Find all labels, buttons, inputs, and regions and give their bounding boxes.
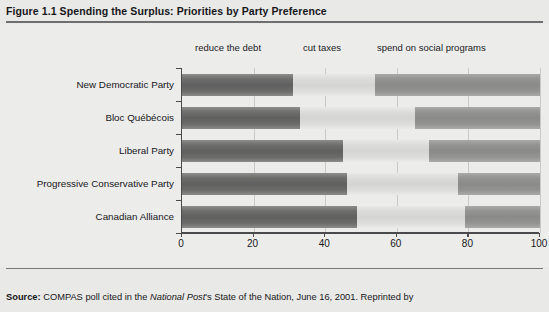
x-tick-label: 60 — [390, 238, 401, 249]
plot-area — [181, 68, 539, 233]
page-title: Figure 1.1 Spending the Surplus: Priorit… — [6, 5, 327, 17]
x-tick — [539, 233, 540, 237]
bar-segment — [300, 107, 415, 129]
y-tick — [176, 167, 181, 168]
category-label: Liberal Party — [119, 145, 174, 156]
x-tick-label: 80 — [462, 238, 473, 249]
source-divider — [6, 268, 543, 269]
chart-figure: reduce the debt cut taxes spend on socia… — [0, 24, 549, 267]
bar-row — [182, 107, 540, 129]
source-label: Source: — [6, 292, 41, 302]
x-tick — [467, 233, 468, 237]
y-tick — [176, 200, 181, 201]
y-tick — [176, 233, 181, 234]
legend-item-spend-on-social-programs: spend on social programs — [377, 42, 486, 53]
plot-inner — [182, 68, 540, 233]
x-tick — [396, 233, 397, 237]
bar-segment — [347, 173, 458, 195]
source-text-1: COMPAS poll cited in the — [41, 292, 150, 302]
chart-legend: reduce the debt cut taxes spend on socia… — [181, 42, 539, 58]
bar-segment — [415, 107, 540, 129]
bar-segment — [182, 107, 300, 129]
x-tick-label: 40 — [319, 238, 330, 249]
x-tick — [181, 233, 182, 237]
bar-row — [182, 206, 540, 228]
legend-item-cut-taxes: cut taxes — [303, 42, 341, 53]
x-tick-label: 100 — [531, 238, 548, 249]
bar-row — [182, 140, 540, 162]
bar-row — [182, 173, 540, 195]
figure-page: Figure 1.1 Spending the Surplus: Priorit… — [0, 0, 549, 312]
source-text-2: 's State of the Nation, June 16, 2001. R… — [205, 292, 413, 302]
y-tick — [176, 134, 181, 135]
y-tick — [176, 68, 181, 69]
y-tick — [176, 101, 181, 102]
bar-segment — [182, 206, 357, 228]
category-label: Bloc Québécois — [105, 112, 174, 123]
bar-segment — [357, 206, 464, 228]
x-tick-label: 20 — [247, 238, 258, 249]
legend-item-reduce-the-debt: reduce the debt — [195, 42, 261, 53]
figure-title-bar: Figure 1.1 Spending the Surplus: Priorit… — [0, 0, 549, 22]
bar-segment — [458, 173, 540, 195]
gridline-100 — [540, 68, 541, 233]
bar-row — [182, 74, 540, 96]
bar-segment — [182, 140, 343, 162]
x-axis-line — [181, 232, 539, 234]
category-label: New Democratic Party — [77, 79, 174, 90]
bar-segment — [182, 173, 347, 195]
bar-segment — [465, 206, 540, 228]
x-tick — [324, 233, 325, 237]
bar-segment — [293, 74, 375, 96]
bar-segment — [182, 74, 293, 96]
source-note: Source: COMPAS poll cited in the Nationa… — [6, 292, 413, 302]
bar-segment — [375, 74, 540, 96]
category-label: Canadian Alliance — [96, 211, 174, 222]
category-label: Progressive Conservative Party — [37, 178, 174, 189]
title-divider — [6, 21, 543, 23]
x-tick — [253, 233, 254, 237]
bar-segment — [343, 140, 429, 162]
source-publication: National Post — [150, 292, 205, 302]
bar-segment — [429, 140, 540, 162]
x-tick-label: 0 — [178, 238, 184, 249]
